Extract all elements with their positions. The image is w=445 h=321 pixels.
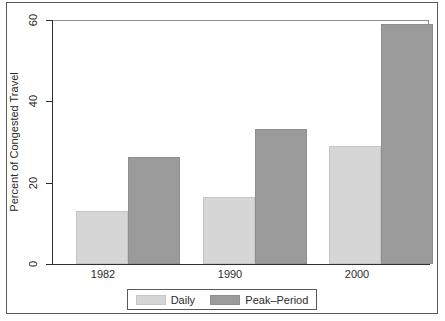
y-tick-mark-60 xyxy=(46,20,52,21)
y-tick-label-0-wrap: 0 xyxy=(22,264,44,265)
legend-label-peak: Peak–Period xyxy=(245,294,308,306)
legend-label-daily: Daily xyxy=(171,294,195,306)
y-tick-label-0: 0 xyxy=(27,261,39,267)
x-tick-label-1990: 1990 xyxy=(218,268,242,280)
y-tick-label-20: 20 xyxy=(27,177,39,189)
y-tick-mark-20 xyxy=(46,183,52,184)
legend-swatch-peak-icon xyxy=(210,295,240,305)
legend-entry-daily: Daily xyxy=(136,294,195,306)
bar-daily-1982 xyxy=(76,211,128,264)
bar-peak-1990 xyxy=(255,129,307,264)
x-tick-label-2000: 2000 xyxy=(345,268,369,280)
cropped-title-remnant xyxy=(70,0,380,2)
y-axis-title: Percent of Congested Travel xyxy=(8,72,20,211)
y-tick-label-40: 40 xyxy=(27,95,39,107)
y-tick-label-20-wrap: 20 xyxy=(22,183,44,184)
legend-entry-peak: Peak–Period xyxy=(210,294,308,306)
bar-peak-1982 xyxy=(128,157,180,264)
y-tick-label-40-wrap: 40 xyxy=(22,101,44,102)
x-tick-label-1982: 1982 xyxy=(91,268,115,280)
bar-daily-2000 xyxy=(329,146,381,264)
bar-peak-2000 xyxy=(381,24,433,264)
legend: Daily Peak–Period xyxy=(127,289,317,310)
y-tick-mark-0 xyxy=(46,264,52,265)
legend-swatch-daily-icon xyxy=(136,295,166,305)
bars-layer xyxy=(53,20,430,264)
y-tick-mark-40 xyxy=(46,101,52,102)
y-tick-label-60-wrap: 60 xyxy=(22,20,44,21)
chart-figure: 0 20 40 60 Percent of Congested Travel 1… xyxy=(0,0,445,321)
x-axis-line xyxy=(52,264,430,265)
bar-daily-1990 xyxy=(203,197,255,264)
y-tick-label-60: 60 xyxy=(27,14,39,26)
